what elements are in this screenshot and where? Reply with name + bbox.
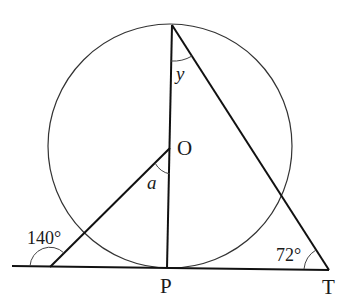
label-T: T (322, 275, 335, 299)
label-angle-y: y (174, 63, 185, 84)
label-angle-140: 140° (27, 228, 61, 248)
angle-arc-y (171, 56, 192, 61)
angle-arc-a (155, 163, 170, 174)
label-P: P (160, 274, 172, 298)
geometry-diagram: O P T y a 140° 72° (0, 0, 346, 304)
angle-arc-140 (30, 247, 64, 266)
line-O-to-L (50, 148, 170, 267)
tangent-line (12, 266, 329, 270)
angle-arc-72 (304, 250, 316, 269)
label-angle-72: 72° (276, 245, 301, 265)
label-angle-a: a (147, 172, 157, 193)
label-O: O (177, 136, 192, 160)
line-top-to-T (172, 25, 329, 270)
